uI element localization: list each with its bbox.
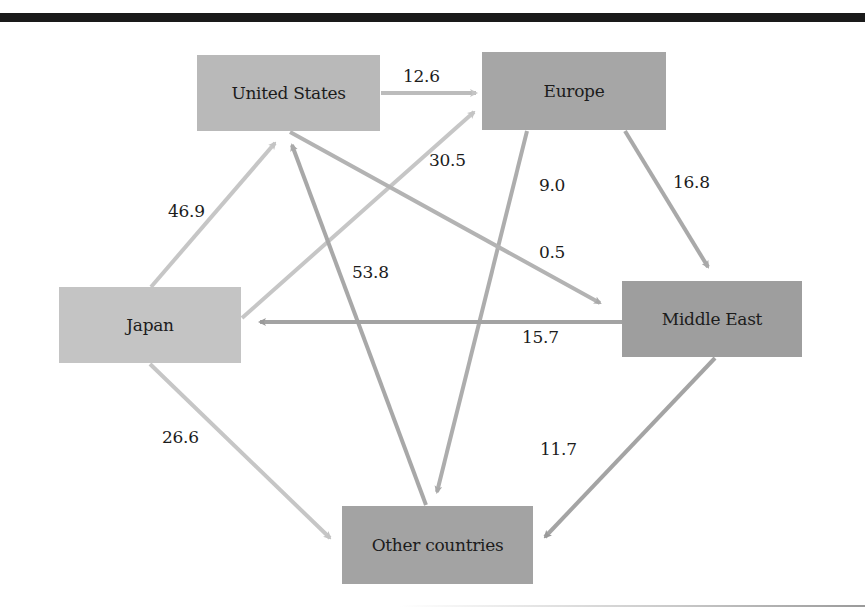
node-label: Other countries [372,535,504,555]
node-middle-east: Middle East [622,281,802,357]
node-united-states: United States [197,55,380,131]
flow-label-japan-us: 46.9 [168,201,205,221]
node-label: Middle East [662,309,762,329]
flow-label-europe-middle-east: 16.8 [673,172,710,192]
node-japan: Japan [59,287,241,363]
flow-label-middle-east-japan: 15.7 [522,327,559,347]
arrow-europe-to-middle-east [625,131,708,267]
flow-label-japan-other: 26.6 [162,427,199,447]
flow-label-us-middle-east: 0.5 [539,242,565,262]
arrow-europe-to-other [437,131,527,492]
node-label: Europe [544,81,605,101]
node-label: Japan [126,315,173,335]
flow-label-japan-europe: 30.5 [429,150,466,170]
flow-label-europe-other: 9.0 [539,175,565,195]
node-label: United States [231,83,345,103]
flow-label-middle-east-other: 11.7 [540,439,577,459]
bottom-rule [400,605,865,607]
arrow-other-to-us [292,145,426,505]
flow-label-us-europe: 12.6 [403,66,440,86]
arrow-japan-to-other [150,364,330,538]
flow-label-other-us: 53.8 [352,262,389,282]
node-europe: Europe [482,52,666,130]
node-other-countries: Other countries [342,506,533,584]
